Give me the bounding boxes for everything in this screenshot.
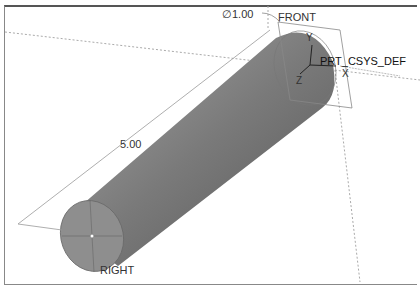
right-datum-label[interactable]: RIGHT bbox=[100, 264, 134, 276]
length-dimension[interactable]: 5.00 bbox=[120, 138, 141, 150]
model-graphics[interactable] bbox=[0, 0, 420, 285]
csys-axis-z: Z bbox=[296, 75, 302, 86]
csys-label[interactable]: PRT_CSYS_DEF bbox=[320, 55, 406, 67]
csys-axis-y: Y bbox=[306, 32, 313, 43]
diameter-dimension[interactable]: ∅1.00 bbox=[222, 8, 253, 21]
csys-axis-x: X bbox=[342, 68, 349, 79]
front-datum-label[interactable]: FRONT bbox=[278, 11, 316, 23]
